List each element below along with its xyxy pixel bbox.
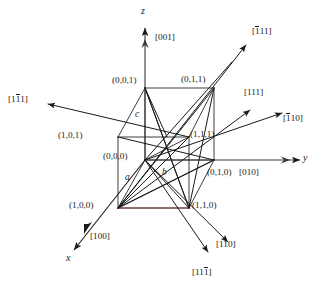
construction-000-110 bbox=[145, 160, 189, 208]
y-axis-symbol: y bbox=[303, 153, 307, 163]
diagram-canvas bbox=[0, 0, 321, 289]
vertex-label-100: (1,0,0) bbox=[69, 201, 94, 210]
bracket-close: ] bbox=[209, 267, 212, 277]
crystal-direction-diagram: z [001] y [010] x [100] c a b (0,0,1) (0… bbox=[0, 0, 321, 289]
bracket-close: 1] bbox=[20, 94, 28, 104]
x-axis-index-label: [100] bbox=[90, 232, 110, 241]
direction-vectors bbox=[48, 45, 282, 252]
direction-label-bar111: [111] bbox=[252, 27, 272, 36]
x-axis-symbol: x bbox=[66, 253, 70, 263]
edge-001-101 bbox=[118, 88, 145, 137]
vertex-label-001: (0,0,1) bbox=[112, 76, 137, 85]
z-axis-index-label: [001] bbox=[155, 33, 175, 42]
construction-110-001 bbox=[145, 88, 189, 208]
direction-label-110: [110] bbox=[216, 240, 236, 249]
bracket-close: 10] bbox=[291, 113, 303, 123]
overbar-digit: 1 bbox=[286, 114, 291, 123]
overbar-digit: 1 bbox=[204, 268, 209, 277]
direction-label-11bar1: [111] bbox=[192, 268, 212, 277]
vertex-label-111: (1,1,1) bbox=[190, 130, 215, 139]
direction-label-1bar11: [111] bbox=[8, 95, 28, 104]
lattice-parameter-c: c bbox=[135, 110, 139, 120]
axis-lines bbox=[145, 28, 300, 160]
bracket-open: [1 bbox=[8, 94, 16, 104]
overbar-digit: 1 bbox=[255, 27, 260, 36]
bracket-open: [11 bbox=[192, 267, 204, 277]
vertex-label-110: (1,1,0) bbox=[192, 201, 217, 210]
direction-label-111: [111] bbox=[244, 88, 263, 97]
overbar-digit: 1 bbox=[16, 95, 21, 104]
lattice-parameter-a: a bbox=[125, 173, 130, 183]
vertex-label-000: (0,0,0) bbox=[103, 152, 128, 161]
axis-secondary-arrowheads bbox=[141, 39, 290, 164]
vertex-label-010: (0,1,0) bbox=[207, 168, 232, 177]
vertex-label-011: (0,1,1) bbox=[181, 75, 206, 84]
bracket-close: 11] bbox=[260, 26, 272, 36]
lattice-parameter-b: b bbox=[162, 168, 167, 178]
vertex-label-101: (1,0,1) bbox=[58, 131, 83, 140]
z-axis-symbol: z bbox=[141, 6, 145, 16]
y-axis-index-label: [010] bbox=[239, 168, 259, 177]
direction-label-bar110: [110] bbox=[283, 114, 303, 123]
